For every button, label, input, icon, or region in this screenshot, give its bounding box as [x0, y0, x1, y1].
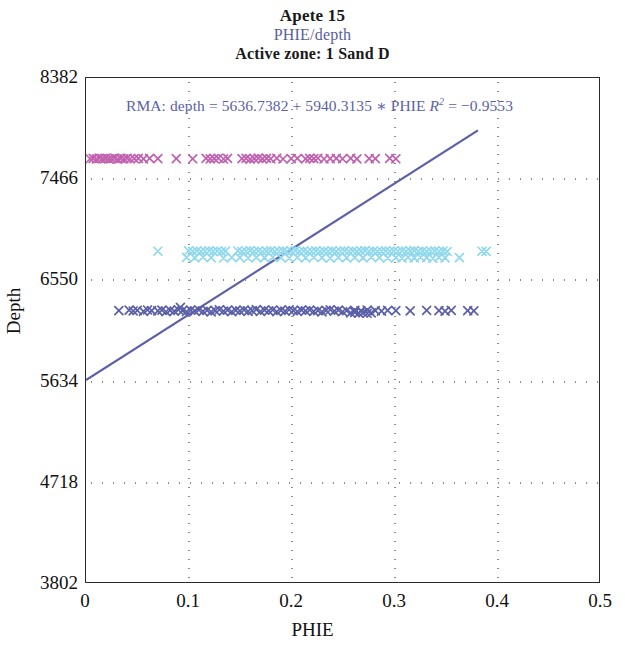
scatter-marker: [154, 247, 162, 255]
scatter-marker: [384, 306, 392, 314]
scatter-marker: [207, 254, 215, 262]
scatter-marker: [244, 254, 252, 262]
scatter-marker: [261, 254, 269, 262]
scatter-marker: [189, 155, 197, 163]
scatter-marker: [277, 254, 285, 262]
scatter-marker: [326, 254, 334, 262]
scatter-marker: [406, 307, 414, 315]
scatter-marker: [343, 254, 351, 262]
x-axis-tick-label: 0.4: [485, 590, 509, 612]
scatter-marker: [353, 155, 361, 163]
x-axis-tick-labels: 00.10.20.30.40.5: [85, 590, 600, 616]
scatter-marker: [219, 254, 227, 262]
scatter-marker: [318, 254, 326, 262]
y-axis-title: Depth: [3, 271, 25, 351]
scatter-marker: [441, 254, 449, 262]
scatter-marker: [339, 155, 347, 163]
chart-title-block: Apete 15 PHIE/depth Active zone: 1 Sand …: [0, 6, 625, 64]
scatter-marker: [447, 306, 455, 314]
scatter-marker: [115, 307, 123, 315]
plot-area: RMA: depth = 5636.7382 + 5940.3135 ∗ PHI…: [86, 78, 599, 582]
x-axis-tick-label: 0: [80, 590, 90, 612]
scatter-marker: [154, 155, 162, 163]
x-axis-tick-label: 0.2: [279, 590, 303, 612]
scatter-marker: [375, 254, 383, 262]
scatter-marker: [285, 254, 293, 262]
scatter-marker: [293, 154, 301, 162]
scatter-marker: [384, 254, 392, 262]
x-axis-tick-label: 0.1: [176, 590, 200, 612]
y-axis-tick-label: 5634: [40, 370, 78, 392]
scatter-marker: [279, 155, 287, 163]
scatter-marker-layer: [86, 78, 599, 582]
y-axis-tick-label: 8382: [40, 66, 78, 88]
plot-frame: RMA: depth = 5636.7382 + 5940.3135 ∗ PHI…: [85, 77, 600, 583]
scatter-marker: [172, 155, 180, 163]
y-axis-tick-label: 4718: [40, 471, 78, 493]
scatter-marker: [470, 307, 478, 315]
chart-title-active-zone: Active zone: 1 Sand D: [0, 45, 625, 64]
scatter-marker: [392, 307, 400, 315]
chart-page: Apete 15 PHIE/depth Active zone: 1 Sand …: [0, 0, 625, 645]
x-axis-tick-label: 0.5: [588, 590, 612, 612]
scatter-marker: [302, 254, 310, 262]
scatter-marker: [310, 253, 318, 261]
scatter-marker: [392, 155, 400, 163]
scatter-marker: [191, 254, 199, 262]
x-axis-title: PHIE: [0, 619, 625, 641]
scatter-marker: [371, 155, 379, 163]
y-axis-tick-label: 6550: [40, 268, 78, 290]
y-axis-tick-label: 7466: [40, 167, 78, 189]
scatter-marker: [423, 306, 431, 314]
scatter-marker: [183, 253, 191, 261]
scatter-marker: [455, 254, 463, 262]
scatter-series-lower-zone: [115, 303, 478, 317]
x-axis-tick-label: 0.3: [382, 590, 406, 612]
chart-title-subtitle: PHIE/depth: [0, 26, 625, 45]
scatter-marker: [146, 154, 154, 162]
y-axis-tick-label: 3802: [40, 572, 78, 594]
scatter-marker: [359, 254, 367, 262]
scatter-series-upper-zone: [86, 154, 400, 163]
chart-title-main: Apete 15: [0, 6, 625, 26]
scatter-series-middle-zone: [154, 247, 490, 262]
